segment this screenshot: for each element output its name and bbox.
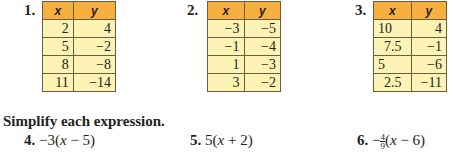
cell: −8	[73, 56, 115, 74]
problem-number-5: 5.	[190, 132, 201, 148]
section-heading: Simplify each expression.	[3, 113, 165, 130]
cell: 4	[411, 20, 446, 38]
expression-4: 4. −3(x − 5)	[24, 132, 95, 149]
cell: −2	[73, 38, 115, 56]
problem-number-6: 6.	[357, 132, 368, 148]
header-x: x	[374, 2, 412, 20]
cell: 11	[43, 74, 74, 92]
header-y: y	[244, 2, 281, 20]
cell: −3	[208, 20, 245, 38]
cell: 4	[73, 20, 115, 38]
cell: −5	[244, 20, 281, 38]
header-x: x	[43, 2, 74, 20]
expr-sign: −	[372, 132, 380, 148]
xy-table-1: xy 24 5−2 8−8 11−14	[42, 1, 116, 92]
expr-text: −3(	[39, 132, 60, 148]
cell: −6	[411, 56, 446, 74]
cell: 5	[43, 38, 74, 56]
cell: 8	[43, 56, 74, 74]
expr-var: x	[390, 132, 397, 148]
cell: 3	[208, 74, 245, 92]
problem-number-4: 4.	[24, 132, 35, 148]
cell: −14	[73, 74, 115, 92]
cell: −1	[411, 38, 446, 56]
expr-text: 5(	[205, 132, 218, 148]
cell: −2	[244, 74, 281, 92]
cell: 2	[43, 20, 74, 38]
expression-6: 6. −49(x − 6)	[357, 132, 425, 150]
cell: 1	[208, 56, 245, 74]
expr-text: − 5)	[67, 132, 95, 148]
expr-text: − 6)	[397, 132, 425, 148]
xy-table-2: xy −3−5 −1−4 1−3 3−2	[207, 1, 281, 92]
cell: −3	[244, 56, 281, 74]
cell: −11	[411, 74, 446, 92]
header-y: y	[411, 2, 446, 20]
cell: 5	[374, 56, 412, 74]
cell: 10	[374, 20, 412, 38]
xy-table-3: xy 104 7.5−1 5−6 2.5−11	[373, 1, 447, 92]
expr-var: x	[60, 132, 67, 148]
cell: −4	[244, 38, 281, 56]
cell: 7.5	[374, 38, 412, 56]
problem-number-3: 3.	[355, 2, 366, 19]
header-y: y	[73, 2, 115, 20]
header-x: x	[208, 2, 245, 20]
problem-number-2: 2.	[187, 2, 198, 19]
expr-text: + 2)	[224, 132, 252, 148]
problem-number-1: 1.	[24, 2, 35, 19]
expression-5: 5. 5(x + 2)	[190, 132, 253, 149]
cell: 2.5	[374, 74, 412, 92]
cell: −1	[208, 38, 245, 56]
